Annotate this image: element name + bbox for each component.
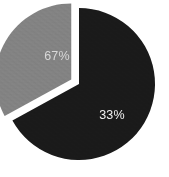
pie-chart-svg: 67% 33%: [0, 0, 169, 177]
pie-chart-figure: 67% 33%: [0, 0, 169, 177]
pie-label-67: 67%: [44, 49, 70, 63]
pie-label-33: 33%: [99, 108, 125, 122]
